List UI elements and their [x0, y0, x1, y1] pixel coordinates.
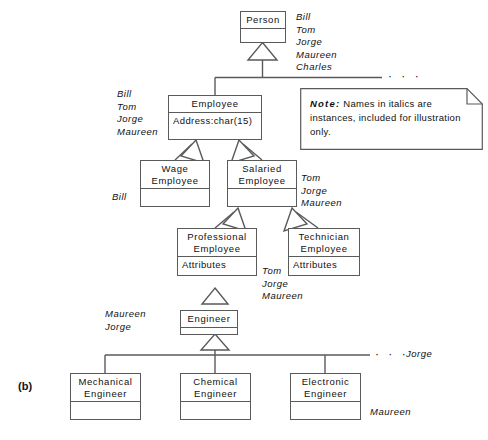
class-name-person: Person	[241, 12, 285, 28]
figure-caption: (b)	[18, 380, 32, 392]
class-box-employee[interactable]: Employee Address:char(15)	[168, 95, 262, 140]
instance-list-person: Bill Tom Jorge Maureen Charles	[296, 11, 337, 74]
edge-technician	[296, 212, 318, 228]
class-name-technician-employee: Technician Employee	[289, 229, 359, 256]
class-attributes-mechanical-engineer	[71, 402, 140, 415]
class-attributes-salaried-employee	[228, 189, 296, 202]
class-name-salaried-employee: Salaried Employee	[228, 161, 296, 188]
class-box-wage-employee[interactable]: Wage Employee	[140, 160, 210, 207]
instance-list-electronic-engineer: Maureen	[370, 406, 411, 419]
instance-list-engineer: Maureen Jorge	[105, 308, 146, 333]
ellipsis-person-level: · · ·	[388, 69, 422, 83]
class-box-engineer[interactable]: Engineer	[180, 310, 238, 335]
class-attributes-electronic-engineer	[291, 402, 360, 415]
class-name-wage-employee: Wage Employee	[141, 161, 209, 188]
class-box-professional-employee[interactable]: Professional Employee Attributes	[177, 228, 257, 276]
class-box-mechanical-engineer[interactable]: Mechanical Engineer	[70, 373, 141, 420]
instance-list-salaried-employee: Tom Jorge Maureen	[301, 172, 342, 210]
instance-list-professional-employee: Tom Jorge Maureen	[262, 265, 303, 303]
class-name-employee: Employee	[169, 96, 261, 112]
class-name-professional-employee: Professional Employee	[178, 229, 256, 256]
note-text: Note: Names in italics are instances, in…	[310, 97, 472, 139]
instance-list-engineer-subclasses: Jorge	[406, 348, 432, 361]
note-box: Note: Names in italics are instances, in…	[300, 88, 483, 150]
edge-salaried	[243, 144, 262, 160]
class-attributes-engineer	[181, 328, 237, 341]
edge-professional	[215, 212, 234, 228]
class-box-electronic-engineer[interactable]: Electronic Engineer	[290, 373, 361, 420]
class-attributes-person	[241, 29, 285, 42]
class-name-electronic-engineer: Electronic Engineer	[291, 374, 360, 401]
uml-class-diagram: Person Employee Address:char(15) Wage Em…	[0, 0, 488, 440]
note-label: Note:	[310, 98, 340, 109]
class-name-engineer: Engineer	[181, 311, 237, 327]
instance-list-employee: Bill Tom Jorge Maureen	[117, 88, 158, 138]
ellipsis-engineer-level: · · ·	[375, 347, 409, 361]
class-attributes-employee: Address:char(15)	[169, 113, 261, 129]
class-attributes-professional-employee: Attributes	[178, 257, 256, 273]
class-box-chemical-engineer[interactable]: Chemical Engineer	[180, 373, 251, 420]
class-name-chemical-engineer: Chemical Engineer	[181, 374, 250, 401]
class-box-person[interactable]: Person	[240, 11, 286, 43]
triangle-professional-engineer	[202, 288, 228, 304]
class-attributes-chemical-engineer	[181, 402, 250, 415]
class-attributes-wage-employee	[141, 189, 209, 202]
instance-list-wage-employee: Bill	[112, 191, 127, 204]
edge-wage	[175, 144, 192, 160]
triangle-person	[248, 43, 277, 61]
class-name-mechanical-engineer: Mechanical Engineer	[71, 374, 140, 401]
class-box-salaried-employee[interactable]: Salaried Employee	[227, 160, 297, 207]
